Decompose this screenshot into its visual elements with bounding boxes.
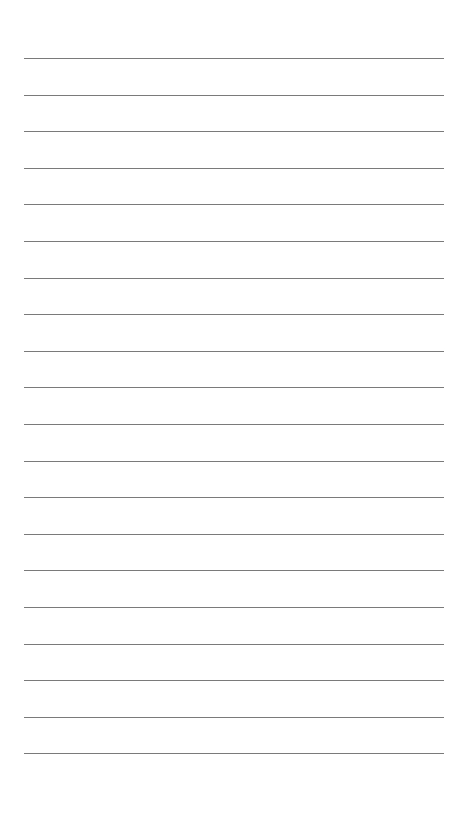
ruled-line <box>24 314 444 315</box>
lined-paper-page <box>0 0 464 813</box>
ruled-line <box>24 424 444 425</box>
ruled-line <box>24 570 444 571</box>
ruled-line <box>24 717 444 718</box>
ruled-line <box>24 644 444 645</box>
ruled-line <box>24 241 444 242</box>
ruled-line <box>24 168 444 169</box>
ruled-line <box>24 680 444 681</box>
ruled-line <box>24 534 444 535</box>
ruled-line <box>24 753 444 754</box>
ruled-line <box>24 58 444 59</box>
ruled-line <box>24 351 444 352</box>
ruled-line <box>24 461 444 462</box>
ruled-line <box>24 95 444 96</box>
ruled-line <box>24 131 444 132</box>
ruled-line <box>24 607 444 608</box>
ruled-line <box>24 387 444 388</box>
ruled-line <box>24 204 444 205</box>
ruled-line <box>24 497 444 498</box>
ruled-line <box>24 278 444 279</box>
